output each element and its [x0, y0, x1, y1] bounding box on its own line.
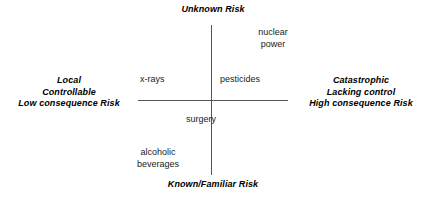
- axis-label-right-line-1: Catastrophic: [300, 75, 422, 87]
- axis-label-left-local-controllable: Local Controllable Low consequence Risk: [8, 75, 130, 110]
- axis-label-right-line-3: High consequence Risk: [300, 98, 422, 110]
- data-point-label-x-rays-line-1: x-rays: [140, 73, 165, 85]
- axis-label-bottom-known-familiar-risk: Known/Familiar Risk: [0, 179, 426, 191]
- data-point-label-nuclear-power: nuclear power: [240, 26, 306, 50]
- axis-label-bottom-text: Known/Familiar Risk: [0, 179, 426, 191]
- data-point-label-pesticides: pesticides: [220, 73, 260, 85]
- risk-perception-quadrant-diagram: Unknown Risk Known/Familiar Risk Local C…: [0, 0, 426, 198]
- data-point-label-pesticides-line-1: pesticides: [220, 73, 260, 85]
- axis-label-top-unknown-risk: Unknown Risk: [0, 4, 426, 16]
- data-point-label-nuclear-power-line-1: nuclear: [240, 26, 306, 38]
- data-point-label-alcoholic-beverages-line-1: alcoholic: [122, 146, 194, 158]
- axis-label-left-line-2: Controllable: [8, 87, 130, 99]
- data-point-label-nuclear-power-line-2: power: [240, 38, 306, 50]
- axis-label-right-catastrophic-lacking-control: Catastrophic Lacking control High conseq…: [300, 75, 422, 110]
- horizontal-axis-line: [138, 100, 288, 101]
- axis-label-top-text: Unknown Risk: [0, 4, 426, 16]
- axis-label-left-line-3: Low consequence Risk: [8, 98, 130, 110]
- axis-label-left-line-1: Local: [8, 75, 130, 87]
- data-point-label-alcoholic-beverages: alcoholic beverages: [122, 146, 194, 170]
- data-point-label-surgery: surgery: [186, 113, 216, 125]
- data-point-label-alcoholic-beverages-line-2: beverages: [122, 158, 194, 170]
- axis-label-right-line-2: Lacking control: [300, 87, 422, 99]
- data-point-label-surgery-line-1: surgery: [186, 113, 216, 125]
- data-point-label-x-rays: x-rays: [140, 73, 165, 85]
